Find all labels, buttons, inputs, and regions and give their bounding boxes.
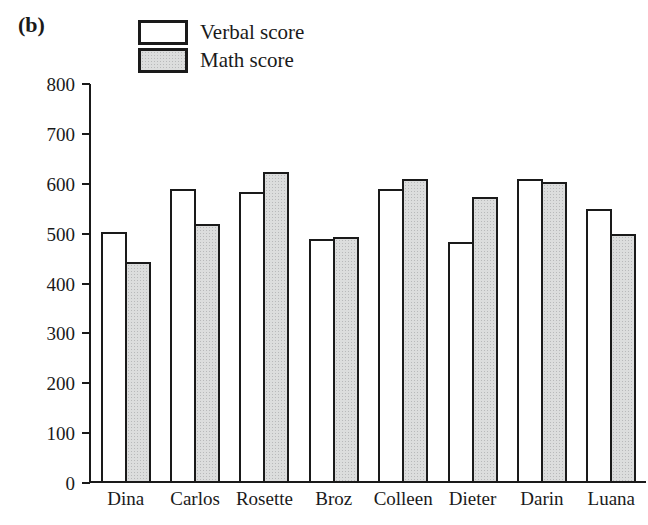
math-bar-rosette <box>263 172 289 481</box>
y-tick-label: 100 <box>15 424 75 443</box>
bar-group-darin <box>507 84 576 481</box>
x-label-broz: Broz <box>299 489 368 508</box>
math-bar-broz <box>333 237 359 481</box>
plot-area: 0100200300400500600700800 DinaCarlosRose… <box>0 0 648 525</box>
x-label-luana: Luana <box>577 489 646 508</box>
math-bar-dina <box>125 262 151 481</box>
x-label-darin: Darin <box>507 489 576 508</box>
x-axis-line <box>89 481 646 483</box>
verbal-bar-carlos <box>170 189 196 481</box>
x-label-rosette: Rosette <box>230 489 299 508</box>
math-bar-carlos <box>194 224 220 481</box>
x-label-dina: Dina <box>91 489 160 508</box>
y-tick-label: 0 <box>15 474 75 493</box>
x-axis-labels: DinaCarlosRosetteBrozColleenDieterDarinL… <box>91 489 646 508</box>
verbal-bar-dieter <box>448 242 474 481</box>
y-tick-label: 500 <box>15 224 75 243</box>
verbal-bar-dina <box>101 232 127 481</box>
y-tick-mark <box>82 133 90 135</box>
verbal-bar-darin <box>517 179 543 481</box>
verbal-bar-broz <box>309 239 335 481</box>
x-label-carlos: Carlos <box>160 489 229 508</box>
math-bar-colleen <box>402 179 428 481</box>
math-bar-luana <box>610 234 636 481</box>
y-tick-mark <box>82 432 90 434</box>
y-tick-label: 200 <box>15 374 75 393</box>
y-tick-label: 400 <box>15 274 75 293</box>
y-tick-label: 600 <box>15 174 75 193</box>
y-tick-mark <box>82 382 90 384</box>
y-tick-mark <box>82 332 90 334</box>
bar-group-broz <box>299 84 368 481</box>
bars-row <box>91 84 646 481</box>
math-bar-darin <box>541 182 567 481</box>
bar-group-colleen <box>369 84 438 481</box>
y-tick-mark <box>82 183 90 185</box>
bar-group-rosette <box>230 84 299 481</box>
verbal-bar-luana <box>586 209 612 481</box>
x-label-colleen: Colleen <box>369 489 438 508</box>
y-tick-label: 800 <box>15 75 75 94</box>
y-tick-label: 300 <box>15 324 75 343</box>
verbal-bar-colleen <box>378 189 404 481</box>
y-tick-mark <box>82 233 90 235</box>
x-label-dieter: Dieter <box>438 489 507 508</box>
y-tick-label: 700 <box>15 124 75 143</box>
sat-scores-bar-chart: (b) Verbal score Math score 010020030040… <box>0 0 648 525</box>
bar-group-dieter <box>438 84 507 481</box>
bar-group-carlos <box>160 84 229 481</box>
math-bar-dieter <box>472 197 498 481</box>
y-tick-mark <box>82 482 90 484</box>
y-tick-mark <box>82 83 90 85</box>
y-tick-mark <box>82 283 90 285</box>
bar-group-luana <box>577 84 646 481</box>
verbal-bar-rosette <box>239 192 265 481</box>
bar-group-dina <box>91 84 160 481</box>
